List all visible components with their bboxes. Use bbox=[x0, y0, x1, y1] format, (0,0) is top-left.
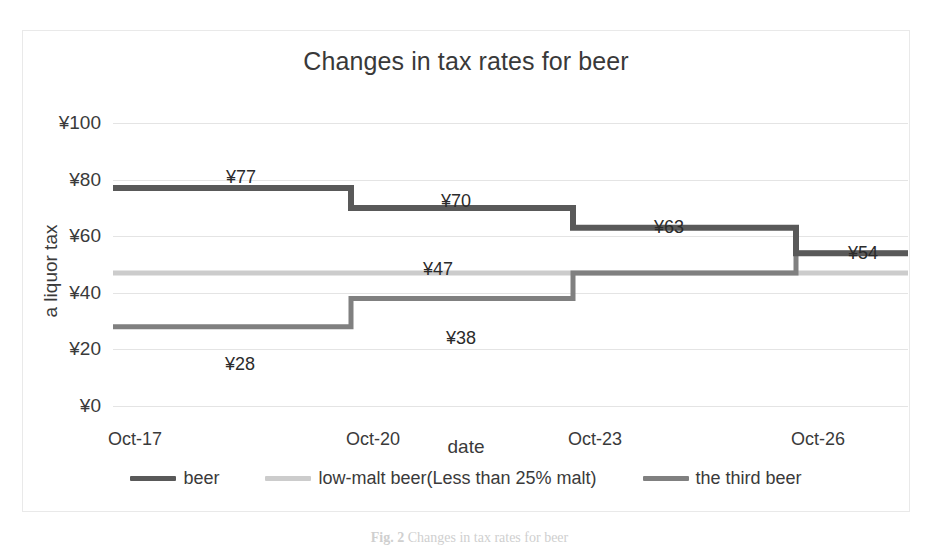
data-label-beer-77: ¥77 bbox=[226, 167, 256, 188]
data-label-beer-54: ¥54 bbox=[848, 243, 878, 264]
chart-legend: beer low-malt beer(Less than 25% malt) t… bbox=[23, 468, 909, 489]
chart-figure: Changes in tax rates for beer a liquor t… bbox=[22, 30, 910, 512]
legend-item-the-third-beer[interactable]: the third beer bbox=[643, 468, 802, 489]
series-line-the-third-beer bbox=[113, 253, 908, 327]
ytick-label-40: ¥40 bbox=[69, 282, 101, 304]
x-axis-title: date bbox=[23, 436, 909, 458]
figure-caption-text: Changes in tax rates for beer bbox=[408, 530, 569, 545]
data-label-third-beer-38: ¥38 bbox=[446, 328, 476, 349]
ytick-label-80: ¥80 bbox=[69, 169, 101, 191]
ytick-label-0: ¥0 bbox=[80, 395, 101, 417]
legend-label-beer: beer bbox=[183, 468, 219, 489]
ytick-label-20: ¥20 bbox=[69, 338, 101, 360]
legend-item-low-malt-beer[interactable]: low-malt beer(Less than 25% malt) bbox=[265, 468, 596, 489]
data-label-low-malt-47: ¥47 bbox=[423, 259, 453, 280]
chart-title: Changes in tax rates for beer bbox=[23, 47, 909, 76]
series-line-beer bbox=[113, 188, 908, 253]
y-axis-title: a liquor tax bbox=[40, 225, 62, 318]
figure-caption: Fig. 2 Changes in tax rates for beer bbox=[0, 530, 939, 546]
legend-label-the-third-beer: the third beer bbox=[696, 468, 802, 489]
legend-swatch-low-malt-beer bbox=[265, 476, 311, 481]
data-label-beer-70: ¥70 bbox=[441, 191, 471, 212]
legend-item-beer[interactable]: beer bbox=[130, 468, 219, 489]
legend-label-low-malt-beer: low-malt beer(Less than 25% malt) bbox=[318, 468, 596, 489]
legend-swatch-the-third-beer bbox=[643, 476, 689, 481]
legend-swatch-beer bbox=[130, 476, 176, 481]
data-label-beer-63: ¥63 bbox=[654, 217, 684, 238]
figure-caption-label: Fig. 2 bbox=[371, 530, 404, 545]
data-label-third-beer-28: ¥28 bbox=[225, 354, 255, 375]
ytick-label-100: ¥100 bbox=[59, 112, 101, 134]
axis-line-0 bbox=[113, 406, 908, 407]
ytick-label-60: ¥60 bbox=[69, 225, 101, 247]
